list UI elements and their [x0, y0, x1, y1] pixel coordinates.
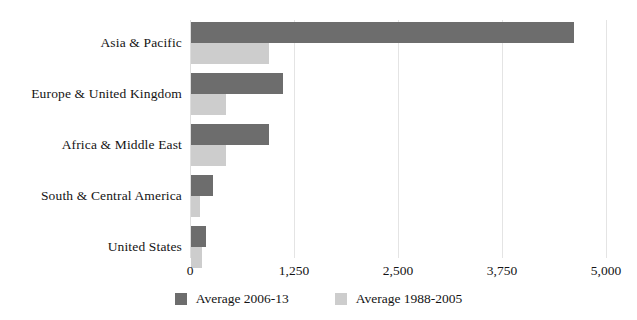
bar-chart: Asia & Pacific Europe & United Kingdom A… [0, 0, 637, 320]
legend-item-average-1988-2005[interactable]: Average 1988-2005 [335, 292, 463, 306]
bar-europe-united-kingdom-2006-13 [191, 73, 283, 94]
gridline-3 [502, 20, 503, 258]
legend-item-average-2006-13[interactable]: Average 2006-13 [175, 292, 289, 306]
x-axis-tick-1: 1,250 [279, 263, 309, 278]
bar-africa-middle-east-1988-2005 [191, 145, 226, 166]
legend-label-1: Average 1988-2005 [356, 292, 463, 306]
bar-europe-united-kingdom-1988-2005 [191, 94, 226, 115]
y-axis-label-2: Africa & Middle East [0, 138, 182, 152]
bar-united-states-2006-13 [191, 226, 206, 247]
bar-asia-pacific-1988-2005 [191, 43, 269, 64]
legend-swatch-icon-light [335, 293, 347, 305]
y-axis-label-4: United States [0, 240, 182, 254]
x-axis-tick-3: 3,750 [487, 263, 517, 278]
legend-label-0: Average 2006-13 [196, 292, 289, 306]
y-axis-label-3: South & Central America [0, 189, 182, 203]
x-axis-tick-0: 0 [187, 263, 194, 278]
y-axis-category-labels: Asia & Pacific Europe & United Kingdom A… [0, 22, 182, 255]
bar-africa-middle-east-2006-13 [191, 124, 269, 145]
bar-south-central-america-2006-13 [191, 175, 213, 196]
x-axis-tick-labels: 0 1,250 2,500 3,750 5,000 [190, 256, 606, 280]
y-axis-label-1: Europe & United Kingdom [0, 87, 182, 101]
x-axis-tick-4: 5,000 [591, 263, 621, 278]
plot-wrapper: Asia & Pacific Europe & United Kingdom A… [0, 0, 637, 285]
bar-asia-pacific-2006-13 [191, 22, 574, 43]
chart-legend: Average 2006-13 Average 1988-2005 [0, 288, 637, 310]
legend-swatch-icon-dark [175, 293, 187, 305]
gridline-2 [398, 20, 399, 258]
gridline-1 [294, 20, 295, 258]
plot-area [190, 22, 606, 255]
bar-south-central-america-1988-2005 [191, 196, 200, 217]
x-axis-tick-2: 2,500 [383, 263, 413, 278]
gridline-4 [606, 20, 607, 258]
y-axis-label-0: Asia & Pacific [0, 36, 182, 50]
